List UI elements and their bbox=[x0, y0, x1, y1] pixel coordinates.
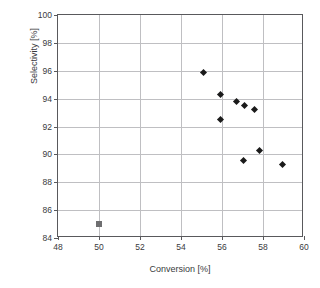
x-tick-label: 52 bbox=[135, 243, 144, 252]
x-tick-mark bbox=[263, 236, 264, 240]
x-tick-label: 48 bbox=[53, 243, 62, 252]
x-tick-label: 60 bbox=[299, 243, 308, 252]
data-point bbox=[96, 221, 102, 227]
x-tick-label: 50 bbox=[94, 243, 103, 252]
gridline-vertical bbox=[222, 15, 223, 236]
x-tick-label: 54 bbox=[176, 243, 185, 252]
x-tick-label: 58 bbox=[258, 243, 267, 252]
y-tick-label: 98 bbox=[43, 39, 52, 48]
gridline-horizontal bbox=[58, 99, 302, 100]
plot-area: 8486889092949698100 48505254565860 bbox=[57, 14, 303, 237]
y-tick-mark bbox=[54, 99, 58, 100]
y-tick-label: 88 bbox=[43, 178, 52, 187]
data-point bbox=[241, 102, 248, 109]
y-tick-label: 84 bbox=[43, 234, 52, 243]
y-tick-label: 90 bbox=[43, 150, 52, 159]
y-tick-mark bbox=[54, 15, 58, 16]
gridline-vertical bbox=[140, 15, 141, 236]
x-tick-label: 56 bbox=[217, 243, 226, 252]
gridline-vertical bbox=[263, 15, 264, 236]
data-point bbox=[251, 106, 258, 113]
gridline-horizontal bbox=[58, 127, 302, 128]
y-tick-mark bbox=[54, 210, 58, 211]
y-axis-title: Selectivity [%] bbox=[29, 0, 39, 131]
gridline-horizontal bbox=[58, 71, 302, 72]
y-tick-label: 100 bbox=[38, 11, 52, 20]
data-point bbox=[240, 157, 247, 164]
x-tick-mark bbox=[181, 236, 182, 240]
gridline-vertical bbox=[99, 15, 100, 236]
gridline-horizontal bbox=[58, 182, 302, 183]
x-tick-mark bbox=[140, 236, 141, 240]
data-point bbox=[200, 69, 207, 76]
y-tick-label: 86 bbox=[43, 206, 52, 215]
y-tick-label: 96 bbox=[43, 67, 52, 76]
y-tick-mark bbox=[54, 154, 58, 155]
y-tick-mark bbox=[54, 182, 58, 183]
y-tick-mark bbox=[54, 43, 58, 44]
gridline-horizontal bbox=[58, 210, 302, 211]
gridline-horizontal bbox=[58, 43, 302, 44]
chart-page: 8486889092949698100 48505254565860 Conve… bbox=[0, 0, 320, 288]
x-tick-mark bbox=[304, 236, 305, 240]
data-point bbox=[279, 161, 286, 168]
gridline-horizontal bbox=[58, 154, 302, 155]
data-point bbox=[217, 116, 224, 123]
y-tick-mark bbox=[54, 127, 58, 128]
gridline-vertical bbox=[181, 15, 182, 236]
data-point bbox=[217, 91, 224, 98]
x-axis-title: Conversion [%] bbox=[57, 264, 303, 274]
y-tick-label: 92 bbox=[43, 122, 52, 131]
y-tick-label: 94 bbox=[43, 94, 52, 103]
x-tick-mark bbox=[58, 236, 59, 240]
y-tick-mark bbox=[54, 71, 58, 72]
x-tick-mark bbox=[99, 236, 100, 240]
x-tick-mark bbox=[222, 236, 223, 240]
